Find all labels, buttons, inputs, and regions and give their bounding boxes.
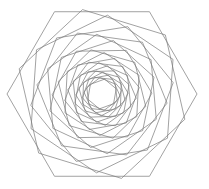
figure-background bbox=[0, 0, 209, 189]
hexagon-spiral-figure bbox=[0, 0, 209, 189]
hexagon-spiral-canvas bbox=[0, 0, 209, 189]
